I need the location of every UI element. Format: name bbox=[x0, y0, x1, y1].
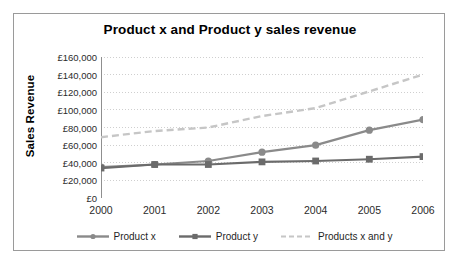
legend-label: Products x and y bbox=[318, 231, 392, 242]
x-tick-label: 2000 bbox=[89, 204, 112, 216]
legend-label: Product y bbox=[216, 231, 258, 242]
data-point-marker bbox=[420, 153, 423, 160]
y-tick-label: £120,000 bbox=[57, 87, 97, 98]
y-tick-label: £40,000 bbox=[63, 157, 97, 168]
data-point-marker bbox=[419, 116, 423, 123]
x-tick-label: 2005 bbox=[358, 204, 381, 216]
x-tick-label: 2001 bbox=[143, 204, 166, 216]
data-point-marker bbox=[312, 142, 319, 149]
chart-container: Product x and Product y sales revenue Sa… bbox=[13, 13, 445, 251]
legend-item[interactable]: Products x and y bbox=[280, 231, 392, 242]
legend-swatch-icon bbox=[280, 231, 314, 242]
data-point-marker bbox=[151, 161, 158, 168]
data-point-marker bbox=[366, 156, 373, 163]
plot-area bbox=[101, 57, 423, 198]
data-point-marker bbox=[205, 161, 212, 168]
data-point-marker bbox=[312, 158, 319, 165]
chart-legend: Product xProduct yProducts x and y bbox=[64, 228, 404, 244]
data-point-marker bbox=[101, 165, 104, 172]
x-tick-label: 2002 bbox=[197, 204, 220, 216]
x-axis-tick-labels: 2000200120022003200420052006 bbox=[101, 204, 423, 220]
data-point-marker bbox=[258, 149, 265, 156]
x-tick-label: 2003 bbox=[250, 204, 273, 216]
data-point-marker bbox=[366, 127, 373, 134]
plot-svg bbox=[101, 57, 423, 198]
legend-item[interactable]: Product y bbox=[178, 231, 258, 242]
chart-title: Product x and Product y sales revenue bbox=[14, 22, 446, 37]
legend-item[interactable]: Product x bbox=[76, 231, 156, 242]
y-axis-tick-labels: £0£20,000£40,000£60,000£80,000£100,000£1… bbox=[14, 57, 97, 198]
y-tick-label: £80,000 bbox=[63, 122, 97, 133]
x-tick-label: 2004 bbox=[304, 204, 327, 216]
y-tick-label: £0 bbox=[86, 193, 97, 204]
y-tick-label: £160,000 bbox=[57, 52, 97, 63]
x-tick-label: 2006 bbox=[411, 204, 434, 216]
y-tick-label: £60,000 bbox=[63, 140, 97, 151]
legend-swatch-icon bbox=[76, 231, 110, 242]
data-point-marker bbox=[259, 158, 266, 165]
y-tick-label: £140,000 bbox=[57, 69, 97, 80]
y-tick-label: £100,000 bbox=[57, 104, 97, 115]
y-tick-label: £20,000 bbox=[63, 175, 97, 186]
legend-swatch-icon bbox=[178, 231, 212, 242]
legend-label: Product x bbox=[114, 231, 156, 242]
